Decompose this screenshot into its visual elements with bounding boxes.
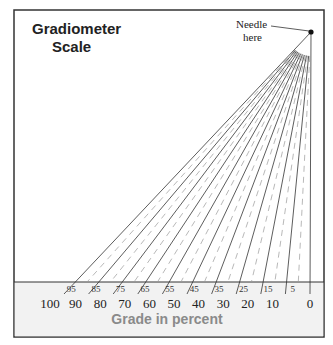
major-tick-label: 20 xyxy=(241,296,254,311)
minor-tick-label: 95 xyxy=(67,284,77,294)
major-tick-label: 100 xyxy=(40,296,60,311)
minor-tick-label: 25 xyxy=(239,284,249,294)
major-tick-label: 60 xyxy=(143,296,156,311)
needle-pivot xyxy=(308,29,313,34)
major-tick-label: 30 xyxy=(217,296,230,311)
major-tick-label: 70 xyxy=(118,296,131,311)
minor-tick-label: 75 xyxy=(116,284,126,294)
major-tick-label: 50 xyxy=(168,296,181,311)
needle-label-line1: Needle xyxy=(236,18,267,30)
minor-tick-label: 85 xyxy=(91,284,101,294)
gradiometer-diagram: Gradiometer Scale Needle here 1009080706… xyxy=(0,0,333,345)
minor-tick-label: 45 xyxy=(190,284,200,294)
minor-tick-label: 5 xyxy=(290,284,295,294)
major-tick-label: 0 xyxy=(307,296,314,311)
minor-tick-label: 55 xyxy=(165,284,175,294)
major-tick-label: 40 xyxy=(192,296,205,311)
title-line2: Scale xyxy=(52,38,91,55)
major-tick-label: 80 xyxy=(94,296,107,311)
title-line1: Gradiometer xyxy=(32,20,121,37)
major-tick-label: 90 xyxy=(69,296,82,311)
needle-label-line2: here xyxy=(243,31,262,43)
axis-label: Grade in percent xyxy=(111,311,223,327)
minor-tick-label: 35 xyxy=(214,284,224,294)
minor-tick-label: 65 xyxy=(141,284,151,294)
major-tick-label: 10 xyxy=(266,296,279,311)
minor-tick-label: 15 xyxy=(264,284,274,294)
